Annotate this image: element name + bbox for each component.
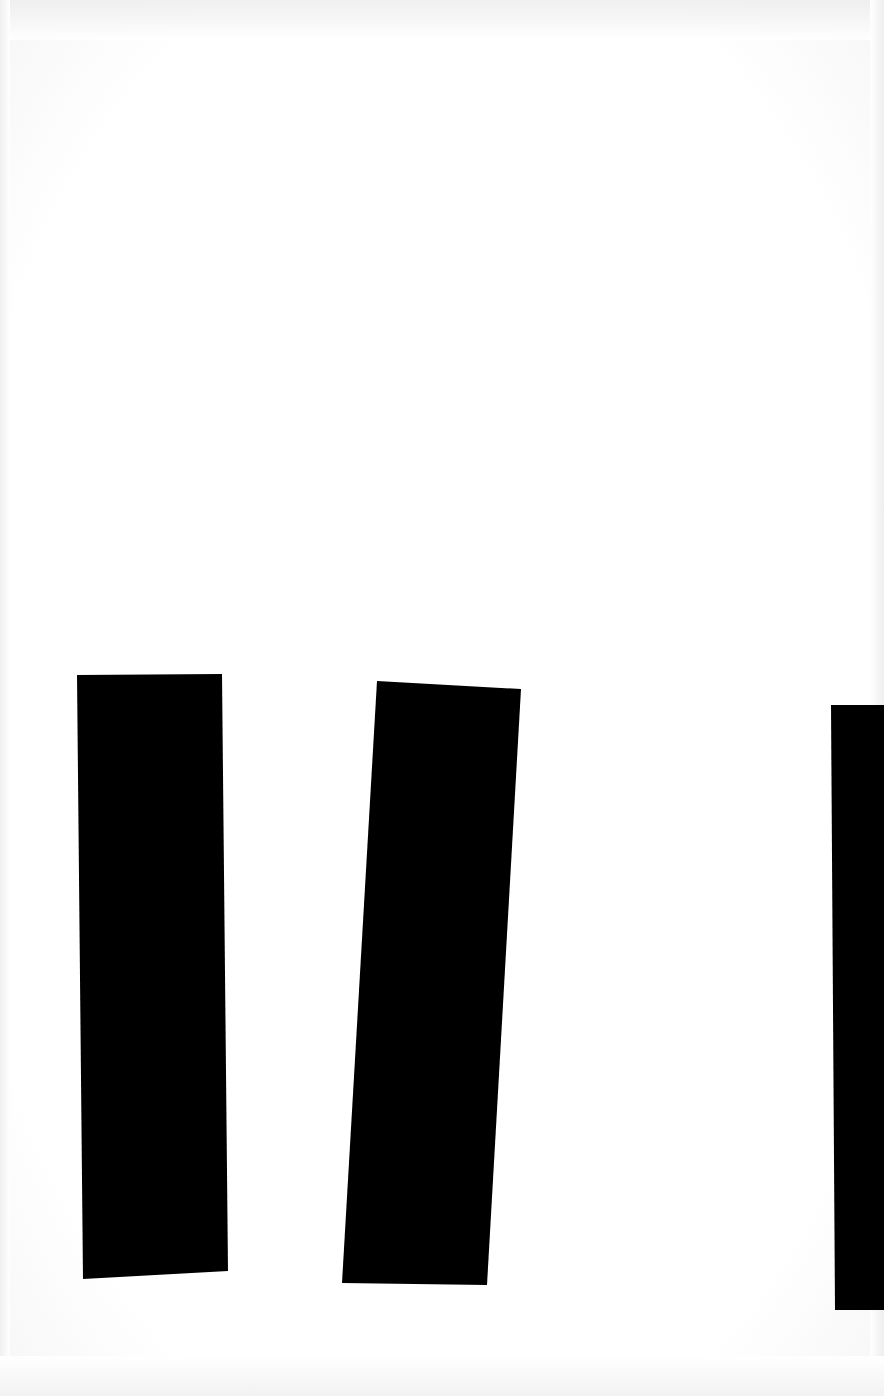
black-bar-1 — [77, 674, 228, 1279]
black-bar-3-clipped — [831, 705, 884, 1310]
bars-layer — [0, 0, 884, 1396]
black-bar-2 — [342, 681, 521, 1285]
paper-canvas — [0, 0, 884, 1396]
